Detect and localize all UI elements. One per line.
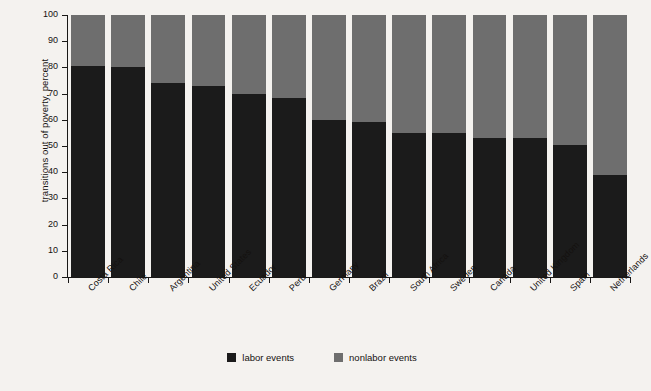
plot-area [68, 15, 630, 277]
bar-segment-labor [111, 67, 145, 277]
bar-segment-nonlabor [272, 15, 306, 98]
bar-segment-labor [151, 83, 185, 277]
bar-column [553, 15, 587, 277]
bar-column [392, 15, 426, 277]
y-axis-tick-label: 90 [18, 36, 58, 45]
bar-column [312, 15, 346, 277]
y-axis-tick-label: 80 [18, 62, 58, 71]
x-axis-tick-mark [550, 278, 551, 283]
bar-segment-nonlabor [111, 15, 145, 67]
bar-segment-nonlabor [593, 15, 627, 175]
x-axis-tick-mark [229, 278, 230, 283]
bar-segment-nonlabor [312, 15, 346, 120]
bar-segment-nonlabor [192, 15, 226, 86]
y-axis-tick-mark [62, 146, 67, 147]
y-axis-tick-mark [62, 225, 67, 226]
y-axis-tick-label: 10 [18, 246, 58, 255]
bar-column [272, 15, 306, 277]
y-axis-tick-mark [62, 251, 67, 252]
bar-segment-nonlabor [392, 15, 426, 133]
legend-swatch-icon [334, 353, 343, 362]
x-axis-tick-mark [590, 278, 591, 283]
bar-segment-nonlabor [352, 15, 386, 122]
x-axis-tick-mark [309, 278, 310, 283]
y-axis-tick-label: 50 [18, 141, 58, 150]
x-axis-tick-mark [68, 278, 69, 283]
y-axis-line [67, 15, 68, 278]
x-axis-tick-mark [148, 278, 149, 283]
bar-segment-labor [272, 98, 306, 277]
y-axis-tick-label: 0 [18, 272, 58, 281]
chart-legend: labor eventsnonlabor events [0, 352, 644, 363]
bar-segment-nonlabor [553, 15, 587, 145]
legend-label: labor events [242, 352, 294, 363]
bar-column [432, 15, 466, 277]
y-axis-tick-label: 30 [18, 193, 58, 202]
bar-segment-labor [352, 122, 386, 277]
bar-segment-nonlabor [151, 15, 185, 83]
y-axis-tick-mark [62, 41, 67, 42]
bar-segment-nonlabor [513, 15, 547, 138]
bar-segment-nonlabor [71, 15, 105, 66]
bar-segment-labor [392, 133, 426, 277]
y-axis-tick-mark [62, 120, 67, 121]
y-axis-tick-mark [62, 198, 67, 199]
y-axis-title: transitions out of poverty, percent [39, 21, 50, 241]
y-axis-tick-label: 20 [18, 220, 58, 229]
bar-column [111, 15, 145, 277]
x-axis-tick-mark [269, 278, 270, 283]
bar-column [192, 15, 226, 277]
x-axis-tick-mark [510, 278, 511, 283]
x-axis-tick-mark [429, 278, 430, 283]
bar-segment-labor [71, 66, 105, 277]
x-axis-tick-mark [389, 278, 390, 283]
bar-segment-nonlabor [473, 15, 507, 138]
bar-column [473, 15, 507, 277]
y-axis-tick-mark [62, 277, 67, 278]
legend-entry: labor events [227, 352, 294, 363]
bar-column [513, 15, 547, 277]
x-axis-tick-mark [469, 278, 470, 283]
bar-segment-labor [593, 175, 627, 277]
legend-label: nonlabor events [349, 352, 417, 363]
x-axis-tick-mark [188, 278, 189, 283]
y-axis-tick-mark [62, 172, 67, 173]
bar-column [593, 15, 627, 277]
x-axis-tick-mark [349, 278, 350, 283]
bar-segment-labor [312, 120, 346, 277]
y-axis-tick-label: 40 [18, 167, 58, 176]
bar-segment-labor [513, 138, 547, 277]
y-axis-tick-label: 70 [18, 89, 58, 98]
legend-entry: nonlabor events [334, 352, 417, 363]
bar-segment-nonlabor [432, 15, 466, 133]
bar-segment-labor [473, 138, 507, 277]
bar-segment-nonlabor [232, 15, 266, 94]
y-axis-tick-mark [62, 67, 67, 68]
y-axis-tick-mark [62, 94, 67, 95]
bar-segment-labor [192, 86, 226, 277]
bar-column [232, 15, 266, 277]
bar-column [71, 15, 105, 277]
y-axis-tick-label: 100 [18, 10, 58, 19]
bar-column [151, 15, 185, 277]
bar-column [352, 15, 386, 277]
legend-swatch-icon [227, 353, 236, 362]
x-axis-tick-mark [630, 278, 631, 283]
y-axis-tick-mark [62, 15, 67, 16]
y-axis-tick-label: 60 [18, 115, 58, 124]
x-axis-tick-mark [108, 278, 109, 283]
